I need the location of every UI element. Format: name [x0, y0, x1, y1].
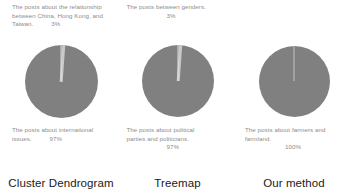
- bottom-label-line-1: The posts about political: [127, 126, 195, 133]
- pie-chart-wrapper: [237, 38, 351, 124]
- panel-caption: Cluster Dendrogram: [4, 177, 118, 193]
- top-label-line-2: between China, Hong Kong, and: [12, 12, 103, 19]
- panel-caption: Treemap: [121, 177, 235, 193]
- top-slice-percent: 3%: [51, 20, 60, 29]
- bottom-slice-percent: 97%: [167, 143, 233, 152]
- pie-slice-label-bottom: The posts about international issues.97%: [4, 124, 118, 177]
- bottom-label-line-2: parties and politicians.: [127, 135, 189, 142]
- pie-slice-label-top: [237, 0, 351, 38]
- pie-chart-wrapper: [4, 38, 118, 124]
- pie-slice-divider: [294, 46, 295, 82]
- pie-chart: [25, 45, 98, 118]
- bottom-label-line-1: The posts about farmers and: [245, 126, 325, 133]
- bottom-slice-percent: 97%: [50, 135, 63, 144]
- panel-caption: Our method: [237, 177, 351, 193]
- pie-chart-wrapper: [121, 38, 235, 124]
- chart-panel-our-method: The posts about farmers and farmland. 10…: [237, 0, 351, 193]
- top-slice-percent: 3%: [167, 12, 233, 21]
- top-label-line-1: The posts about the relationship: [12, 3, 102, 10]
- top-label-line-1: The posts between genders.: [127, 3, 206, 10]
- pie-slice-label-bottom: The posts about political parties and po…: [121, 124, 235, 177]
- chart-panel-treemap: The posts between genders. 3% The posts …: [121, 0, 235, 193]
- pie-chart-figure: The posts about the relationship between…: [0, 0, 355, 193]
- chart-panel-cluster-dendrogram: The posts about the relationship between…: [4, 0, 118, 193]
- bottom-slice-percent: 100%: [285, 143, 349, 152]
- pie-slice-divider: [61, 45, 62, 82]
- pie-slice-label-top: The posts about the relationship between…: [4, 0, 118, 38]
- bottom-label-line-2: farmland.: [245, 135, 271, 142]
- pie-chart: [259, 46, 330, 117]
- pie-slice-label-bottom: The posts about farmers and farmland. 10…: [237, 124, 351, 177]
- bottom-label-line-2: issues.: [12, 135, 32, 142]
- bottom-label-line-1: The posts about international: [12, 126, 93, 133]
- pie-chart: [142, 45, 214, 117]
- pie-slice-divider: [177, 45, 178, 81]
- pie-slice-label-top: The posts between genders. 3%: [121, 0, 235, 38]
- top-label-line-3: Taiwan.: [12, 20, 33, 27]
